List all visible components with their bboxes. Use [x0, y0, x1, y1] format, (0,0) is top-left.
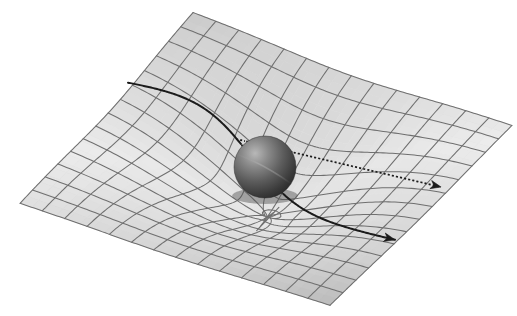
- massive-sphere: [232, 136, 298, 204]
- gravity-well-figure: [0, 0, 517, 316]
- spacetime-diagram-canvas: [0, 0, 517, 316]
